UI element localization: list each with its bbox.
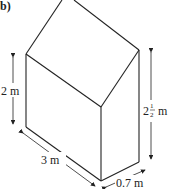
right-height-unit: m <box>158 104 168 118</box>
prism-diagram: b) 2 m 2 1 2 m 3 m 0.7 m <box>0 0 173 189</box>
width-label: 0.7 m <box>116 176 144 189</box>
part-label: b) <box>0 0 11 13</box>
right-height-num: 1 <box>150 102 154 110</box>
right-height-den: 2 <box>150 111 154 119</box>
left-height-label: 2 m <box>1 84 20 98</box>
length-label: 3 m <box>41 153 60 167</box>
right-height-whole: 2 <box>143 104 149 118</box>
